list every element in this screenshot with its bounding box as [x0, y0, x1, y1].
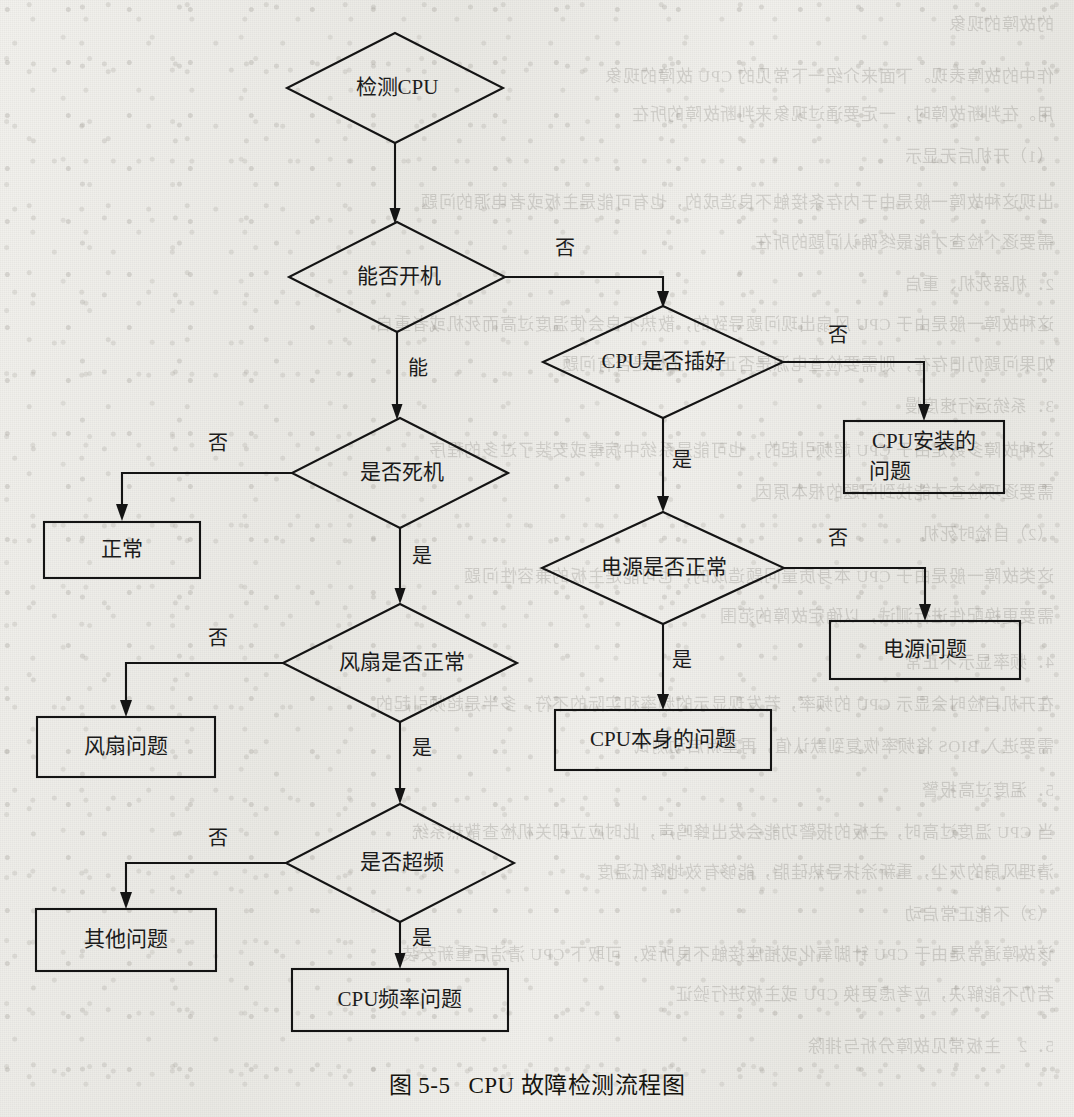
node-start-detect-cpu[interactable]: 检测CPU	[287, 33, 503, 143]
edge-psu-ok-no-to-psu-problem	[784, 568, 931, 621]
node-cpu-itself-label: CPU本身的问题	[590, 727, 736, 751]
edge-fan-ok-no-to-fan-problem	[120, 663, 283, 717]
edge-label-cpu-seated-no: 否	[828, 324, 848, 346]
edge-can-boot-yes-to-is-crash	[392, 332, 403, 420]
node-overclock-label: 是否超频	[360, 850, 444, 874]
figure-caption: 图 5-5CPU 故障检测流程图	[0, 1066, 1074, 1100]
node-psu-problem-label: 电源问题	[883, 637, 967, 661]
edge-label-fan-ok-no: 否	[208, 627, 228, 649]
edge-label-overclock-no: 否	[208, 827, 228, 849]
node-result-normal[interactable]: 正常	[44, 522, 200, 578]
node-result-cpu-frequency-problem[interactable]: CPU频率问题	[292, 969, 508, 1031]
edge-label-psu-ok-yes: 是	[672, 649, 692, 671]
figure-caption-title: CPU 故障检测流程图	[468, 1073, 685, 1098]
edge-label-cpu-seated-yes: 是	[672, 449, 692, 471]
node-decision-cpu-seated[interactable]: CPU是否插好	[543, 306, 783, 418]
node-result-psu-problem[interactable]: 电源问题	[830, 621, 1020, 679]
node-other-problem-label: 其他问题	[84, 927, 168, 951]
edge-fan-ok-yes-to-overclock	[395, 722, 406, 804]
figure-caption-number: 图 5-5	[389, 1073, 451, 1098]
scanned-page: 的故障的现象作中的故障表现。下面来介绍一下常见的 CPU 故障的现象用。在判断故…	[0, 0, 1074, 1117]
node-decision-is-crash[interactable]: 是否死机	[292, 418, 508, 528]
node-psu-ok-label: 电源是否正常	[601, 555, 727, 579]
edge-label-fan-ok-yes: 是	[412, 737, 432, 759]
edge-label-can-boot-no: 否	[555, 237, 575, 259]
edge-psu-ok-yes-to-cpu-itself	[657, 624, 669, 710]
edge-overclock-yes-to-frequency-problem	[395, 922, 406, 969]
node-decision-fan-ok[interactable]: 风扇是否正常	[283, 604, 517, 722]
edge-cpu-seated-yes-to-psu-ok	[657, 418, 669, 512]
node-start-label: 检测CPU	[356, 75, 439, 99]
node-fan-ok-label: 风扇是否正常	[339, 650, 465, 674]
edge-can-boot-no-to-cpu-seated	[505, 277, 669, 308]
node-cpu-frequency-problem-label: CPU频率问题	[338, 987, 463, 1011]
node-fan-problem-label: 风扇问题	[84, 734, 168, 758]
node-normal-label: 正常	[101, 537, 143, 561]
edge-label-overclock-yes: 是	[412, 927, 432, 949]
edge-label-can-boot-yes: 能	[408, 357, 428, 379]
edge-start-to-can-boot	[390, 143, 401, 224]
node-result-cpu-install-problem[interactable]: CPU安装的 问题	[844, 421, 1004, 493]
node-cpu-seated-label: CPU是否插好	[602, 349, 727, 373]
node-decision-overclock[interactable]: 是否超频	[286, 804, 514, 922]
edge-is-crash-no-to-normal	[116, 473, 292, 521]
node-result-fan-problem[interactable]: 风扇问题	[37, 717, 215, 777]
edge-is-crash-yes-to-fan-ok	[395, 528, 406, 604]
node-cpu-install-problem-label-line2: 问题	[869, 459, 911, 483]
node-cpu-install-problem-label-line1: CPU安装的	[872, 429, 976, 453]
node-result-cpu-itself-problem[interactable]: CPU本身的问题	[555, 710, 771, 770]
edge-label-is-crash-no: 否	[208, 432, 228, 454]
edge-overclock-no-to-other-problem	[120, 863, 286, 909]
edge-label-psu-ok-no: 否	[828, 527, 848, 549]
node-can-boot-label: 能否开机	[357, 264, 441, 288]
node-is-crash-label: 是否死机	[360, 460, 444, 484]
edge-label-is-crash-yes: 是	[412, 545, 432, 567]
node-decision-can-boot[interactable]: 能否开机	[289, 222, 505, 332]
node-result-other-problem[interactable]: 其他问题	[36, 909, 216, 971]
node-decision-psu-ok[interactable]: 电源是否正常	[542, 512, 784, 624]
cpu-troubleshooting-flowchart: 检测CPU 能否开机 CPU是否插好 CPU安装的 问题 是否死机 正常 电源是…	[0, 0, 1074, 1060]
edge-cpu-seated-no-to-install-problem	[783, 362, 930, 421]
